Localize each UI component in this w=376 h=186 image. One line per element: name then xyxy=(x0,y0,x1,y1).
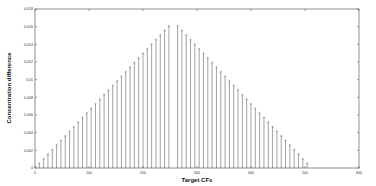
y-tick-label: 0 xyxy=(31,166,33,170)
y-tick-label: 0.006 xyxy=(24,113,33,117)
x-tick-label: 600 xyxy=(356,171,362,175)
y-tick-label: 0.018 xyxy=(24,7,33,11)
x-axis-label: Target CFs xyxy=(182,177,214,183)
x-tick-label: 400 xyxy=(248,171,254,175)
x-tick-label: 500 xyxy=(302,171,308,175)
stem-chart: 0100200300400500600 00.0020.0040.0060.00… xyxy=(0,0,376,186)
x-tick-label: 200 xyxy=(140,171,146,175)
y-tick-label: 0.01 xyxy=(26,78,33,82)
y-tick-label: 0.004 xyxy=(24,131,33,135)
plot-area xyxy=(35,9,359,168)
x-tick-label: 100 xyxy=(86,171,92,175)
x-tick-label: 0 xyxy=(34,171,36,175)
x-tick-label: 300 xyxy=(194,171,200,175)
y-axis-label: Concentration difference xyxy=(6,52,12,124)
y-tick-label: 0.014 xyxy=(24,43,33,47)
y-tick-label: 0.012 xyxy=(24,60,33,64)
y-tick-label: 0.002 xyxy=(24,149,33,153)
y-tick-label: 0.016 xyxy=(24,25,33,29)
y-tick-label: 0.008 xyxy=(24,96,33,100)
